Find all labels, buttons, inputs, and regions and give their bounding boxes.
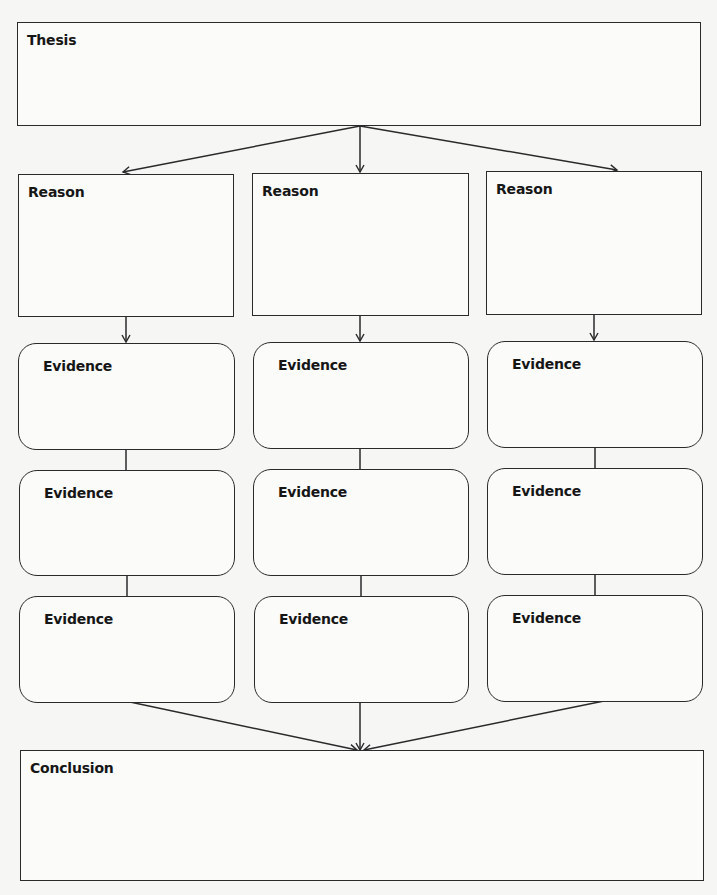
reason-label: Reason <box>262 183 318 199</box>
evidence-label: Evidence <box>512 610 581 626</box>
reason-label: Reason <box>496 181 552 197</box>
evidence-box-2-3[interactable]: Evidence <box>254 596 469 703</box>
evidence-label: Evidence <box>512 356 581 372</box>
reason-box-1[interactable]: Reason <box>18 174 234 317</box>
reason-label: Reason <box>28 184 84 200</box>
arrow-thesis-to-reason-3 <box>360 126 617 170</box>
conclusion-label: Conclusion <box>30 760 114 776</box>
evidence-box-3-1[interactable]: Evidence <box>487 341 703 448</box>
evidence-label: Evidence <box>512 483 581 499</box>
evidence-label: Evidence <box>44 611 113 627</box>
evidence-box-1-2[interactable]: Evidence <box>19 470 235 576</box>
arrow-thesis-to-reason-1 <box>123 126 360 172</box>
arrow-evidence-3-to-conclusion <box>364 701 604 750</box>
evidence-box-1-1[interactable]: Evidence <box>18 343 235 450</box>
evidence-label: Evidence <box>278 357 347 373</box>
thesis-label: Thesis <box>27 32 76 48</box>
evidence-label: Evidence <box>43 358 112 374</box>
evidence-label: Evidence <box>278 484 347 500</box>
evidence-box-1-3[interactable]: Evidence <box>19 596 235 703</box>
evidence-box-3-3[interactable]: Evidence <box>487 595 703 702</box>
evidence-label: Evidence <box>44 485 113 501</box>
thesis-box[interactable]: Thesis <box>17 22 701 126</box>
conclusion-box[interactable]: Conclusion <box>20 750 704 881</box>
arrow-evidence-1-to-conclusion <box>130 702 357 750</box>
reason-box-2[interactable]: Reason <box>252 173 469 316</box>
evidence-box-2-2[interactable]: Evidence <box>253 469 469 576</box>
evidence-box-3-2[interactable]: Evidence <box>487 468 703 575</box>
reason-box-3[interactable]: Reason <box>486 171 702 315</box>
evidence-label: Evidence <box>279 611 348 627</box>
evidence-box-2-1[interactable]: Evidence <box>253 342 469 449</box>
